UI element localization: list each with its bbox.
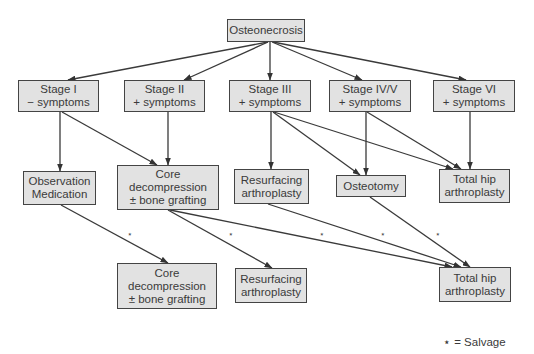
node-label: Stage VI — [452, 83, 496, 96]
node-label: arthroplasty — [444, 186, 504, 199]
node-label: Stage I — [40, 83, 76, 96]
node-sublabel: + symptoms — [133, 96, 195, 109]
node-sublabel: + symptoms — [239, 96, 301, 109]
edge-stage45-thr — [367, 112, 461, 169]
node-resurfacing-arthroplasty: Resurfacing arthroplasty — [234, 169, 309, 204]
node-label: Osteotomy — [343, 180, 399, 193]
node-label: ± bone grafting — [129, 293, 206, 306]
node-label: Core — [156, 168, 181, 181]
node-label: Total hip — [453, 173, 496, 186]
edge-root-stage6 — [273, 42, 466, 80]
node-label: arthroplasty — [445, 285, 505, 298]
edge-stage3-osteotomy — [273, 112, 360, 175]
node-label: Observation — [28, 175, 90, 188]
node-label: decompression — [129, 181, 207, 194]
node-total-hip-arthroplasty-salvage: Total hip arthroplasty — [439, 267, 511, 302]
node-label: Core — [155, 267, 180, 280]
salvage-star-icon: ⋆ — [435, 229, 441, 239]
node-stage-1: Stage I − symptoms — [18, 80, 99, 112]
edge-root-stage1 — [68, 42, 268, 80]
node-stage-3: Stage III + symptoms — [229, 80, 311, 112]
node-observation-medication: Observation Medication — [23, 171, 96, 205]
node-stage-2: Stage II + symptoms — [124, 80, 205, 112]
edge-root-stage45 — [272, 42, 362, 80]
legend-salvage: ⋆ = Salvage — [443, 335, 506, 349]
node-label: Osteonecrosis — [229, 24, 303, 37]
edge-stage3-thr — [274, 112, 453, 169]
edge-root-stage2 — [184, 42, 268, 80]
node-label: arthroplasty — [241, 286, 301, 299]
node-osteonecrosis: Osteonecrosis — [227, 19, 305, 42]
node-resurfacing-arthroplasty-salvage: Resurfacing arthroplasty — [235, 268, 307, 303]
node-core-decompression-salvage: Core decompression ± bone grafting — [117, 263, 217, 309]
node-label: arthroplasty — [241, 187, 301, 200]
salvage-star-icon: ⋆ — [380, 229, 386, 239]
node-label: Total hip — [454, 272, 497, 285]
node-label: Stage IV/V — [343, 83, 398, 96]
node-sublabel: + symptoms — [339, 96, 401, 109]
salvage-star-icon: ⋆ — [228, 229, 234, 239]
edge-observation-core-salvage — [61, 205, 168, 263]
node-sublabel: + symptoms — [443, 96, 505, 109]
node-core-decompression: Core decompression ± bone grafting — [117, 165, 219, 210]
node-label: ± bone grafting — [130, 194, 207, 207]
node-label: Stage III — [249, 83, 292, 96]
node-osteotomy: Osteotomy — [336, 175, 406, 197]
edge-core-resurfacing-salvage — [168, 210, 272, 268]
node-label: Resurfacing — [241, 174, 302, 187]
diagram-canvas: Osteonecrosis Stage I − symptoms Stage I… — [0, 0, 534, 354]
node-total-hip-arthroplasty: Total hip arthroplasty — [439, 169, 510, 203]
edge-stage1-core — [62, 112, 157, 165]
node-stage-6: Stage VI + symptoms — [433, 80, 515, 112]
node-label: Stage II — [145, 83, 185, 96]
node-label: Medication — [32, 188, 88, 201]
salvage-star-icon: ⋆ — [127, 229, 133, 239]
salvage-star-icon: ⋆ — [319, 229, 325, 239]
node-stage-4-5: Stage IV/V + symptoms — [329, 80, 411, 112]
node-label: decompression — [128, 280, 206, 293]
node-sublabel: − symptoms — [27, 96, 89, 109]
node-label: Resurfacing — [240, 273, 301, 286]
